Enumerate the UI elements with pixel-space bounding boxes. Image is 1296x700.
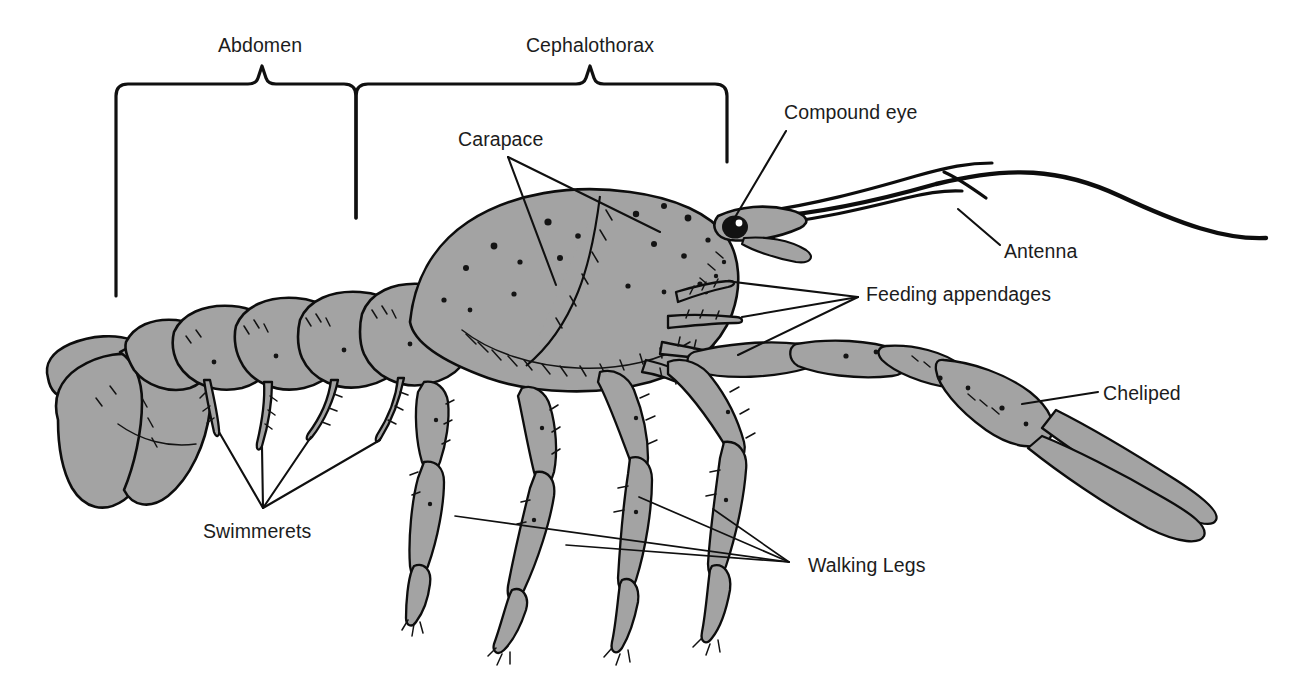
eye-highlight (736, 220, 743, 227)
speck (575, 233, 581, 239)
speck (714, 274, 718, 278)
label-walking-legs: Walking Legs (808, 554, 926, 576)
speck (625, 283, 630, 288)
label-compound-eye: Compound eye (784, 101, 917, 123)
speck (532, 518, 536, 522)
speck (634, 416, 638, 420)
label-cheliped: Cheliped (1103, 382, 1181, 404)
speck (1024, 422, 1029, 427)
label-antenna: Antenna (1004, 240, 1077, 262)
speck (544, 218, 551, 225)
speck (212, 360, 217, 365)
label-cephalothorax: Cephalothorax (526, 34, 654, 56)
speck (557, 255, 563, 261)
leader-segment (262, 447, 263, 508)
speck (540, 426, 544, 430)
speck (937, 375, 942, 380)
speck (274, 354, 279, 359)
speck (651, 241, 657, 247)
speck (463, 265, 469, 271)
anatomy-figure: Abdomen Cephalothorax Carapace Compound … (0, 0, 1296, 700)
speck (428, 502, 432, 506)
label-abdomen: Abdomen (218, 34, 302, 56)
speck (408, 342, 413, 347)
speck (511, 291, 516, 296)
speck (434, 418, 438, 422)
speck (681, 253, 687, 259)
speck (966, 386, 971, 391)
label-swimmerets: Swimmerets (203, 520, 311, 542)
speck (726, 410, 730, 414)
speck (661, 203, 667, 209)
speck (685, 215, 692, 222)
speck (724, 498, 728, 502)
speck (705, 237, 710, 242)
speck (634, 510, 638, 514)
label-feeding-appendages: Feeding appendages (866, 283, 1051, 305)
label-carapace: Carapace (458, 128, 543, 150)
speck (491, 243, 498, 250)
speck (874, 350, 879, 355)
crayfish-anatomy-diagram: Abdomen Cephalothorax Carapace Compound … (0, 0, 1296, 700)
speck (722, 260, 726, 264)
speck (468, 308, 473, 313)
speck (843, 353, 848, 358)
speck (517, 259, 522, 264)
speck (633, 211, 639, 217)
speck (342, 348, 347, 353)
speck (662, 290, 667, 295)
speck (441, 297, 446, 302)
speck (999, 405, 1004, 410)
